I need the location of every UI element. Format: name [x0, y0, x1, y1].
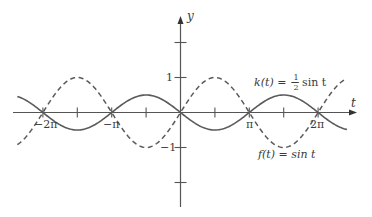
- k-label-prefix: k(t) = −: [254, 76, 299, 89]
- svg-text:k(t) = −: k(t) = −: [254, 76, 299, 89]
- tick-label-2pi: 2π: [310, 118, 324, 131]
- tick-label-pi: π: [246, 118, 253, 131]
- k-label-suffix: sin t: [302, 76, 327, 89]
- tick-label-neg-pi: −π: [103, 118, 119, 131]
- tick-label-y-neg-1: −1: [160, 141, 176, 154]
- k-label-numerator: 1: [294, 73, 299, 82]
- tick-label-neg-2pi: −2π: [34, 118, 57, 131]
- x-axis-label: t: [351, 96, 356, 110]
- annotation-f: f(t) = sin t: [257, 148, 316, 161]
- y-axis-arrow-icon: [178, 16, 184, 24]
- axes: [13, 16, 357, 207]
- annotation-k: k(t) = − 1 2 sin t: [254, 73, 327, 92]
- tick-label-y-1: 1: [166, 71, 173, 84]
- chart-canvas: y t −2π −π π 2π 1 −1 k(t) = − 1 2 sin t …: [0, 0, 372, 217]
- k-label-denominator: 2: [294, 83, 299, 92]
- y-axis-label: y: [186, 9, 194, 23]
- x-axis-arrow-icon: [349, 110, 357, 116]
